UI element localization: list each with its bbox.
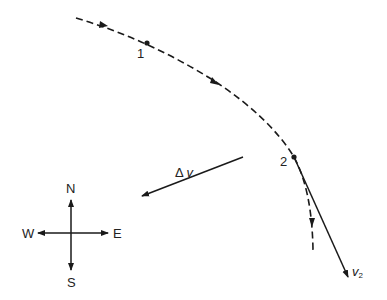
v2-label: v2 xyxy=(352,265,363,280)
delta-v-label: Δ v xyxy=(175,166,193,179)
diagram-canvas xyxy=(0,0,387,300)
point-1-label: 1 xyxy=(137,47,144,60)
compass-east-label: E xyxy=(113,227,122,240)
point-1-dot xyxy=(144,40,149,45)
trajectory-arrow-3 xyxy=(309,218,315,227)
trajectory-curve xyxy=(76,18,313,250)
compass-west-label: W xyxy=(22,227,34,240)
delta-v-var: v xyxy=(187,165,194,180)
compass-south-label: S xyxy=(67,276,76,289)
delta-symbol: Δ xyxy=(175,165,183,180)
v2-sub: 2 xyxy=(359,271,363,280)
compass-icon xyxy=(38,200,108,270)
point-2-label: 2 xyxy=(280,155,287,168)
v2-vector xyxy=(294,157,348,277)
trajectory-arrow-1 xyxy=(99,21,108,28)
compass-north-label: N xyxy=(66,182,75,195)
